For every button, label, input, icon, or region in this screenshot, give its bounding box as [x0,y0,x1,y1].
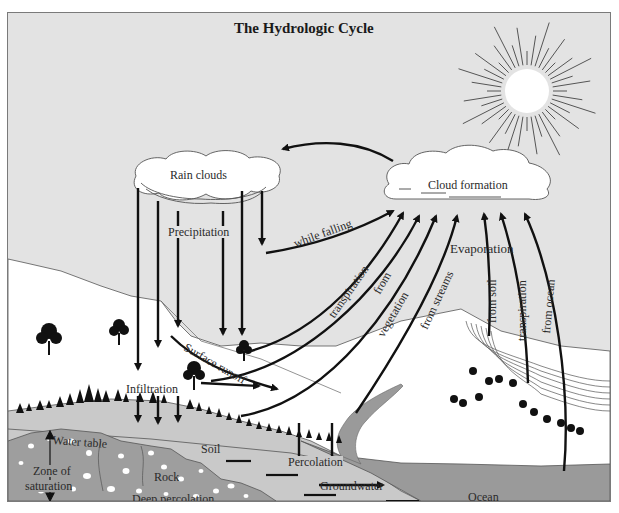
infiltration-label: Infiltration [126,383,178,395]
diagram-title: The Hydrologic Cycle [234,21,374,36]
zone-of-label: Zone of [33,465,71,477]
evaporation-label: Evaporation [450,242,514,255]
water-table-label: Water table [52,434,107,450]
precipitation-label: Precipitation [168,226,229,238]
groundwater-label: Groundwater [320,480,383,492]
deep-percolation-label: Deep percolation [132,493,214,502]
cloud-formation-label: Cloud formation [428,179,508,191]
diagram-frame: The Hydrologic Cycle Rain clouds Cloud f… [7,12,611,502]
saturation-label: saturation [25,480,72,492]
rock-label: Rock [154,471,179,483]
rain-clouds-label: Rain clouds [170,169,227,181]
soil-label: Soil [201,443,220,455]
transpiration-right-label: transpiration [516,280,528,341]
from-soil-label: from soil [486,279,498,323]
hydrologic-cycle-illustration [8,13,610,501]
percolation-label: Percolation [288,456,343,468]
ocean-label: Ocean [468,491,499,502]
